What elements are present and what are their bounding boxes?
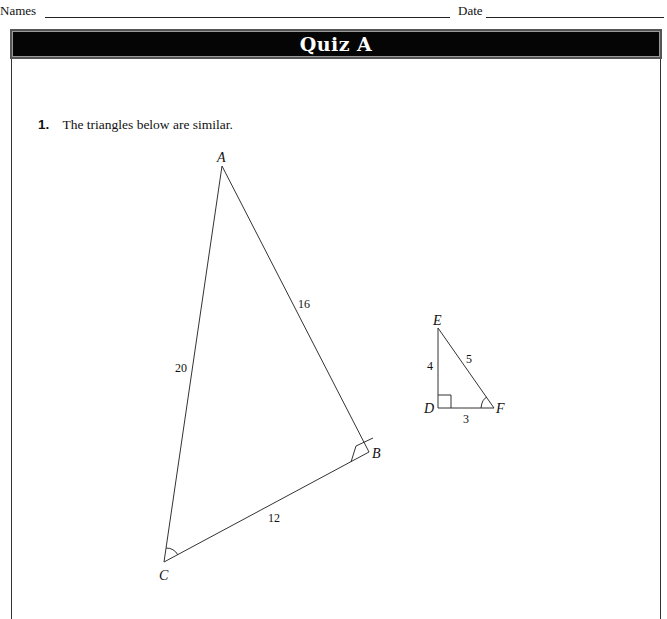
vertex-label-f: F (495, 401, 505, 416)
side-label-bc: 12 (268, 511, 280, 525)
vertex-label-e: E (432, 313, 442, 328)
vertex-label-a: A (216, 150, 226, 165)
triangle-abc: A B C 20 16 12 (159, 150, 381, 583)
side-label-ef: 5 (466, 352, 472, 366)
vertex-label-d: D (423, 401, 434, 416)
side-label-df: 3 (463, 412, 469, 426)
right-angle-marker-d (438, 395, 451, 408)
side-label-de: 4 (427, 359, 433, 373)
triangle-def: E D F 4 5 3 (423, 313, 505, 426)
side-label-ac: 20 (175, 361, 187, 375)
vertex-label-c: C (159, 568, 169, 583)
angle-arc-f (481, 397, 487, 408)
angle-arc-c (166, 548, 178, 555)
right-angle-marker-b (351, 438, 373, 462)
vertex-label-b: B (372, 446, 381, 461)
side-label-ab: 16 (298, 297, 310, 311)
